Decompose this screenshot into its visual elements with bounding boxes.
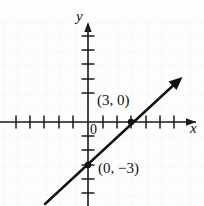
coordinate-plane-figure: y x 0 (3, 0) (0, −3) bbox=[0, 0, 204, 206]
x-axis-label: x bbox=[190, 120, 197, 137]
point-marker-0-neg3 bbox=[85, 162, 91, 168]
y-axis-label: y bbox=[76, 8, 83, 25]
grid-lines bbox=[0, 22, 204, 206]
point-marker-3-0 bbox=[128, 119, 134, 125]
point-label-3-0: (3, 0) bbox=[97, 92, 130, 109]
origin-label: 0 bbox=[90, 122, 97, 138]
point-label-0-neg3: (0, −3) bbox=[98, 160, 139, 177]
